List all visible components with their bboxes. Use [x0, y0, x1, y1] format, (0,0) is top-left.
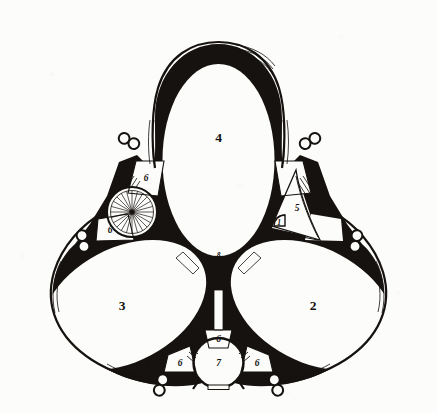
label-niche-bottom-right: 6 [255, 358, 260, 368]
label-hall-left: 3 [119, 298, 126, 313]
column-circle [76, 229, 89, 242]
engraving-plate: 4 3 2 7 8 5 1 6 6 6 6 6 [0, 0, 437, 413]
label-center-junction: 8 [217, 251, 221, 260]
column-circle [351, 229, 364, 242]
label-niche-bottom-center: 6 [216, 334, 221, 344]
label-niche-bottom-left: 6 [178, 358, 183, 368]
column-pair [117, 131, 141, 151]
label-niche-lower-left: 6 [108, 225, 113, 235]
label-hall-top: 4 [215, 130, 222, 145]
floor-plan-drawing: 4 3 2 7 8 5 1 6 6 6 6 6 [0, 0, 437, 413]
label-triangular-space: 5 [295, 203, 300, 213]
column-pair [298, 131, 322, 151]
label-niche-upper-left: 6 [144, 173, 149, 183]
label-quarter-round: 1 [277, 218, 281, 227]
label-hall-right: 2 [310, 298, 317, 313]
column-circle [78, 240, 91, 253]
column-circle [349, 240, 362, 253]
